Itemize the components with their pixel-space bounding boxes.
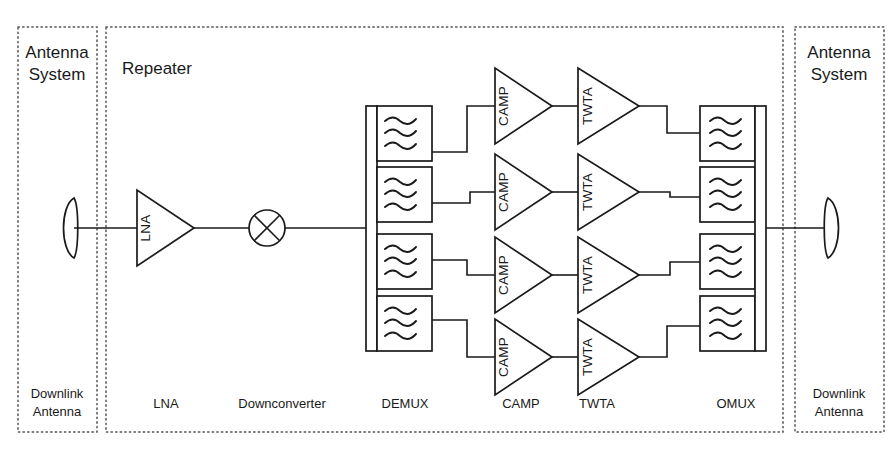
bottom-label-right-antenna-line2: Antenna [815, 404, 864, 419]
left-antenna-system-title-line2: System [29, 65, 86, 84]
bottom-label-omux: OMUX [717, 396, 756, 411]
omux-filter-box-3 [700, 234, 755, 289]
camp-label-4: CAMP [496, 337, 511, 377]
bottom-label-right-antenna-line1: Downlink [813, 386, 866, 401]
right-antenna-system-title-line2: System [811, 65, 868, 84]
twta-label-1: TWTA [580, 87, 595, 125]
lna-label: LNA [138, 215, 153, 242]
satellite-repeater-diagram: Antenna System Repeater Antenna System L… [0, 0, 896, 453]
camp-label-1: CAMP [496, 86, 511, 126]
right-antenna-system-title-line1: Antenna [807, 43, 871, 62]
omux-filter-box-4 [700, 296, 755, 351]
bottom-label-downconverter: Downconverter [238, 396, 326, 411]
bottom-label-demux: DEMUX [382, 396, 429, 411]
left-antenna-system-title-line1: Antenna [25, 43, 89, 62]
bottom-label-left-antenna-line1: Downlink [31, 386, 84, 401]
omux-manifold-bar [755, 106, 766, 351]
omux-filter-box-1 [700, 106, 755, 161]
bottom-label-left-antenna-line2: Antenna [33, 404, 82, 419]
demux-manifold-bar [366, 106, 377, 351]
bottom-label-lna: LNA [153, 396, 179, 411]
bottom-label-twta: TWTA [579, 396, 615, 411]
bottom-label-camp: CAMP [502, 396, 540, 411]
twta-label-2: TWTA [580, 173, 595, 211]
twta-label-4: TWTA [580, 338, 595, 376]
twta-label-3: TWTA [580, 256, 595, 294]
omux-filter-box-2 [700, 167, 755, 222]
repeater-title: Repeater [122, 59, 192, 78]
camp-label-2: CAMP [496, 172, 511, 212]
camp-label-3: CAMP [496, 255, 511, 295]
repeater-diagram-container: Antenna System Repeater Antenna System L… [0, 0, 896, 453]
